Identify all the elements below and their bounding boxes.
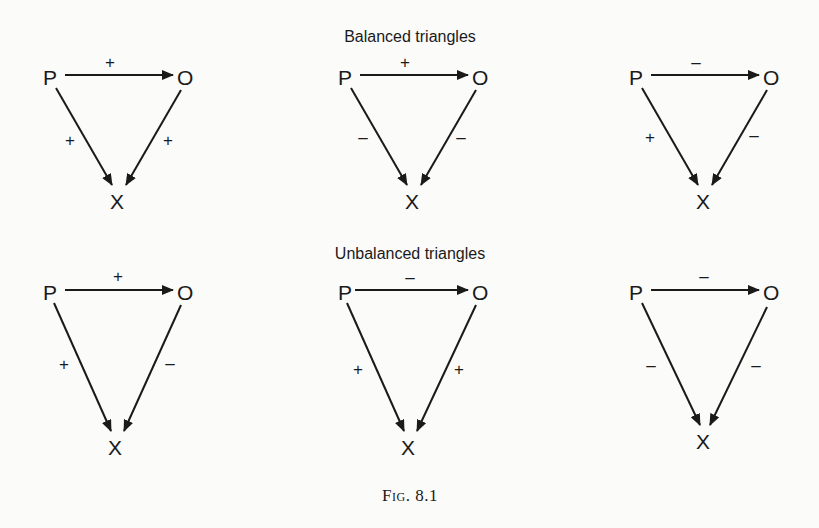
edge-o-x bbox=[712, 90, 767, 185]
sign-o-x: + bbox=[163, 131, 173, 150]
triangle-unbalanced-1: P O X + + – bbox=[43, 267, 193, 459]
triangle-unbalanced-3: P O X – – – bbox=[629, 267, 779, 453]
triangle-balanced-2: P O X + – – bbox=[338, 53, 488, 213]
edge-o-x bbox=[421, 90, 476, 185]
sign-p-x: + bbox=[645, 128, 655, 147]
edge-o-x bbox=[417, 305, 476, 431]
triangle-diagrams: P O X + + + P O X + – – P O X – + – P O … bbox=[0, 0, 819, 528]
sign-p-o: + bbox=[113, 267, 123, 286]
node-p: P bbox=[629, 66, 643, 89]
sign-o-x: – bbox=[751, 356, 761, 375]
triangle-balanced-1: P O X + + + bbox=[43, 53, 193, 213]
node-o: O bbox=[472, 66, 488, 89]
sign-o-x: + bbox=[454, 360, 464, 379]
node-x: X bbox=[110, 190, 124, 213]
sign-p-x: + bbox=[65, 131, 75, 150]
sign-p-o: – bbox=[691, 53, 701, 72]
triangle-balanced-3: P O X – + – bbox=[629, 53, 779, 213]
node-x: X bbox=[696, 430, 710, 453]
node-o: O bbox=[177, 281, 193, 304]
sign-p-o: – bbox=[405, 268, 415, 287]
triangle-unbalanced-2: P O X – + + bbox=[338, 268, 488, 459]
sign-o-x: – bbox=[165, 354, 175, 373]
node-x: X bbox=[108, 436, 122, 459]
node-p: P bbox=[43, 281, 57, 304]
node-o: O bbox=[177, 66, 193, 89]
node-x: X bbox=[405, 190, 419, 213]
node-o: O bbox=[763, 281, 779, 304]
sign-p-x: – bbox=[646, 356, 656, 375]
node-p: P bbox=[629, 281, 643, 304]
sign-p-x: + bbox=[59, 355, 69, 374]
node-p: P bbox=[43, 66, 57, 89]
node-x: X bbox=[696, 190, 710, 213]
sign-p-x: – bbox=[358, 128, 368, 147]
sign-p-o: – bbox=[699, 267, 709, 286]
sign-p-o: + bbox=[400, 53, 410, 72]
sign-p-x: + bbox=[353, 360, 363, 379]
sign-o-x: – bbox=[749, 126, 759, 145]
node-x: X bbox=[401, 436, 415, 459]
node-p: P bbox=[338, 281, 352, 304]
node-o: O bbox=[763, 66, 779, 89]
node-p: P bbox=[338, 66, 352, 89]
node-o: O bbox=[472, 281, 488, 304]
sign-o-x: – bbox=[456, 128, 466, 147]
sign-p-o: + bbox=[105, 53, 115, 72]
